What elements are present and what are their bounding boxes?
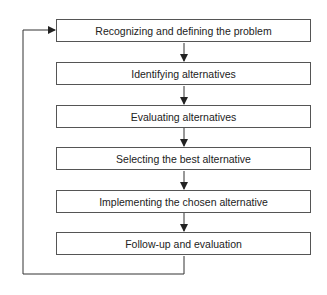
step-label: Follow-up and evaluation	[125, 238, 242, 250]
step-follow-up: Follow-up and evaluation	[56, 232, 311, 255]
step-label: Identifying alternatives	[131, 68, 235, 80]
step-selecting-best: Selecting the best alternative	[56, 147, 311, 170]
step-label: Evaluating alternatives	[131, 111, 237, 123]
step-label: Implementing the chosen alternative	[99, 196, 268, 208]
step-implementing: Implementing the chosen alternative	[56, 190, 311, 213]
step-label: Selecting the best alternative	[116, 153, 251, 165]
step-label: Recognizing and defining the problem	[95, 25, 271, 37]
step-evaluating-alternatives: Evaluating alternatives	[56, 105, 311, 128]
step-recognizing-problem: Recognizing and defining the problem	[56, 19, 311, 42]
step-identifying-alternatives: Identifying alternatives	[56, 62, 311, 85]
